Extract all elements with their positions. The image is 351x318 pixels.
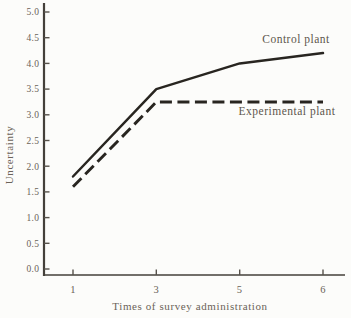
y-tick-label: 2.0 <box>26 162 39 172</box>
y-tick-label: 1.5 <box>26 187 39 197</box>
y-axis-tick-labels: 5.04.54.03.53.02.52.01.51.00.50.0 <box>26 7 39 274</box>
y-tick-label: 3.5 <box>26 84 39 94</box>
y-tick-label: 4.5 <box>26 33 39 43</box>
y-tick-label: 3.0 <box>26 110 39 120</box>
y-tick-label: 4.0 <box>26 59 39 69</box>
y-tick-label: 0.5 <box>26 239 39 249</box>
x-tick-label: 5 <box>237 284 243 295</box>
y-tick-label: 0.0 <box>26 264 39 274</box>
y-tick-label: 2.5 <box>26 136 39 146</box>
x-tick-label: 3 <box>153 284 159 295</box>
y-tick-label: 1.0 <box>26 213 39 223</box>
series-lines <box>73 53 323 187</box>
series-label-experimental-plant: Experimental plant <box>239 105 336 118</box>
x-axis-tick-labels: 1356 <box>70 284 326 295</box>
series-label-control-plant: Control plant <box>262 33 330 46</box>
uncertainty-line-chart: 5.04.54.03.53.02.52.01.51.00.50.0 1356 U… <box>0 0 351 318</box>
y-axis-title: Uncertainty <box>3 126 15 185</box>
x-tick-label: 1 <box>70 284 76 295</box>
x-axis-title: Times of survey administration <box>112 300 267 312</box>
x-tick-label: 6 <box>320 284 326 295</box>
y-tick-label: 5.0 <box>26 7 39 17</box>
chart-figure: 5.04.54.03.53.02.52.01.51.00.50.0 1356 U… <box>0 0 351 318</box>
